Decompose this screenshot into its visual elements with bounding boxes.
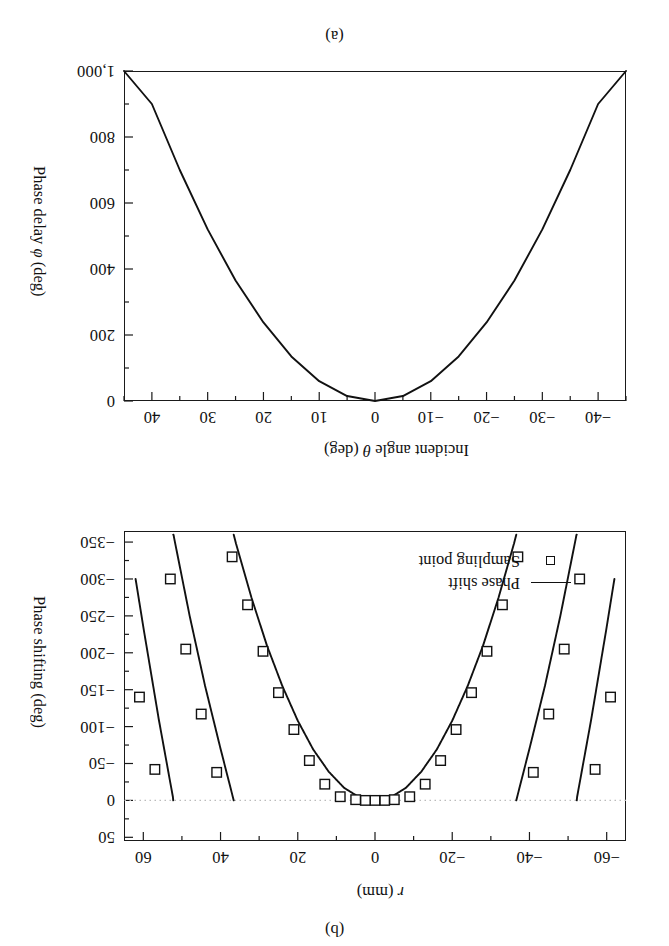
panel_b-y-tick-label: −300: [80, 571, 115, 588]
panel_a-x-tick-label: 10: [311, 409, 328, 426]
panel_b-y-tick-label: −350: [80, 534, 115, 551]
panel-a-caption: (a): [0, 26, 669, 46]
panel-a-chart-svg: [124, 71, 626, 401]
panel_b-x-tick-label: 20: [289, 849, 306, 866]
panel-b-caption: (b): [0, 920, 669, 940]
panel_b-x-tick-label: −40: [516, 849, 542, 866]
legend-line-swatch: [528, 583, 574, 584]
panel_b-y-tick-label: −200: [80, 645, 115, 662]
panel_b-y-tick-label: −150: [80, 681, 115, 698]
panel-a-x-axis-title: Incident angle θ (deg): [324, 440, 469, 460]
panel-a-y-axis-title: Phase delay φ (deg): [29, 166, 49, 297]
panel_b-x-tick-label: −20: [439, 849, 465, 866]
panel_a-y-tick-label: 0: [107, 393, 115, 410]
legend-label-sampling-point: Sampling point: [419, 551, 520, 571]
panel_a-x-tick-label: −30: [529, 409, 555, 426]
panel-b-legend: Phase shift Sampling point: [419, 550, 574, 594]
panel_b-y-tick-label: 0: [107, 792, 115, 809]
legend-item-sampling-point: Sampling point: [419, 550, 574, 572]
panel_a-x-tick-label: 30: [199, 409, 216, 426]
panel-b: Phase shift Sampling point r (mm) Phase …: [0, 476, 669, 946]
panel_a-y-tick-label: 1,000: [77, 63, 115, 80]
panel_a-y-tick-label: 200: [90, 327, 115, 344]
legend-label-phase-shift: Phase shift: [448, 573, 520, 593]
panel-a: Incident angle θ (deg) Phase delay φ (de…: [0, 0, 669, 476]
panel_b-x-tick-label: 40: [212, 849, 229, 866]
panel_b-x-tick-label: 0: [371, 849, 379, 866]
panel_a-y-tick-label: 800: [90, 129, 115, 146]
panel_a-x-tick-label: 20: [255, 409, 272, 426]
panel_a-x-tick-label: −40: [585, 409, 611, 426]
legend-square-swatch: [528, 557, 574, 566]
panel_b-y-tick-label: −250: [80, 608, 115, 625]
panel_a-x-tick-label: −20: [473, 409, 499, 426]
panel_b-y-tick-label: 50: [98, 829, 115, 846]
panel_b-y-tick-label: −100: [80, 718, 115, 735]
figure-rotated-container: Phase shift Sampling point r (mm) Phase …: [0, 0, 669, 946]
legend-item-phase-shift: Phase shift: [419, 572, 574, 594]
panel_a-x-tick-label: 0: [371, 409, 379, 426]
panel-a-plot-area: [124, 71, 626, 401]
panel_b-x-tick-label: −60: [594, 849, 620, 866]
panel_a-y-tick-label: 600: [90, 195, 115, 212]
panel_a-x-tick-label: 40: [143, 409, 160, 426]
panel_b-y-tick-label: −50: [89, 755, 115, 772]
panel-b-y-axis-title: Phase shifting (deg): [29, 596, 49, 728]
panel_a-y-tick-label: 400: [90, 261, 115, 278]
panel_a-x-tick-label: −10: [418, 409, 444, 426]
panel_b-x-tick-label: 60: [135, 849, 152, 866]
panel-b-x-axis-title: r (mm): [357, 882, 404, 902]
